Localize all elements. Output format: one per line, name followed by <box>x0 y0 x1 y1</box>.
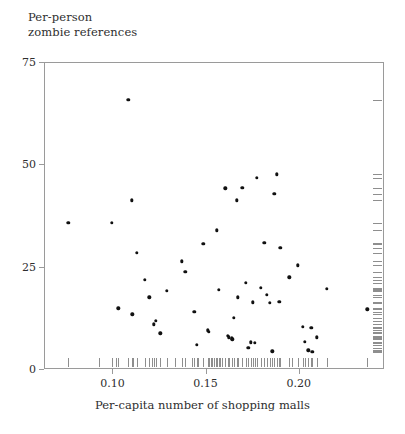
scatter-point <box>224 187 227 190</box>
scatter-point <box>192 310 195 313</box>
scatter-point <box>215 229 218 232</box>
scatter-point <box>366 308 369 311</box>
scatter-point <box>247 346 250 349</box>
scatter-point <box>271 349 274 352</box>
scatter-point <box>311 350 314 353</box>
scatter-point <box>110 221 113 224</box>
scatter-point <box>184 270 187 273</box>
scatter-point <box>251 301 254 304</box>
x-tick-label: 0.10 <box>100 377 125 390</box>
y-tick-label: 25 <box>22 260 36 273</box>
scatter-point <box>273 192 276 195</box>
scatter-point <box>303 340 306 343</box>
plot-panel <box>44 62 384 369</box>
scatter-point <box>131 313 134 316</box>
scatter-point <box>154 319 157 322</box>
scatter-points-layer <box>45 63 383 368</box>
scatter-point <box>130 198 133 201</box>
y-tick-label: 50 <box>22 158 36 171</box>
scatter-plot-figure: Per-person zombie references 0255075 0.1… <box>0 0 405 434</box>
scatter-point <box>127 98 130 101</box>
scatter-point <box>217 288 220 291</box>
scatter-point <box>232 316 235 319</box>
scatter-point <box>301 325 304 328</box>
scatter-point <box>117 306 120 309</box>
y-axis-label-line1: Per-person <box>28 10 92 24</box>
scatter-point <box>287 276 290 279</box>
scatter-point <box>253 341 256 344</box>
scatter-point <box>195 343 198 346</box>
scatter-point <box>180 259 183 262</box>
scatter-point <box>259 286 262 289</box>
x-tick-mark <box>112 369 113 374</box>
scatter-point <box>241 186 244 189</box>
scatter-point <box>255 176 258 179</box>
y-axis-label-line2: zombie references <box>28 25 137 39</box>
scatter-point <box>244 281 247 284</box>
x-tick-mark <box>299 369 300 374</box>
scatter-point <box>278 300 281 303</box>
scatter-point <box>67 221 70 224</box>
scatter-point <box>143 278 146 281</box>
x-tick-mark <box>206 369 207 374</box>
scatter-point <box>265 293 268 296</box>
scatter-point <box>263 241 266 244</box>
scatter-point <box>135 251 138 254</box>
scatter-point <box>315 336 318 339</box>
scatter-point <box>207 330 210 333</box>
scatter-point <box>165 289 168 292</box>
scatter-point <box>159 331 162 334</box>
scatter-point <box>236 295 239 298</box>
scatter-point <box>231 338 234 341</box>
scatter-point <box>307 349 310 352</box>
scatter-point <box>275 173 278 176</box>
scatter-point <box>202 242 205 245</box>
y-tick-mark <box>39 369 44 370</box>
scatter-point <box>279 246 282 249</box>
x-tick-label: 0.15 <box>193 377 218 390</box>
scatter-point <box>325 287 328 290</box>
scatter-point <box>249 340 252 343</box>
scatter-point <box>148 295 151 298</box>
x-tick-label: 0.20 <box>287 377 312 390</box>
y-axis-label: Per-person zombie references <box>28 10 137 40</box>
scatter-point <box>235 198 238 201</box>
scatter-point <box>296 264 299 267</box>
scatter-point <box>309 326 312 329</box>
y-tick-label: 0 <box>29 363 36 376</box>
scatter-point <box>268 301 271 304</box>
scatter-point <box>152 322 155 325</box>
x-axis-label: Per-capita number of shopping malls <box>0 398 405 412</box>
y-tick-label: 75 <box>22 56 36 69</box>
